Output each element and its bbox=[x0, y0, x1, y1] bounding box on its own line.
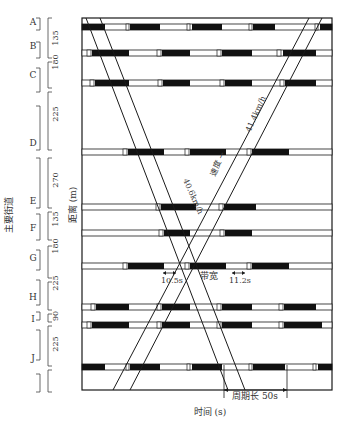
red-phase bbox=[92, 50, 129, 56]
signal-row bbox=[82, 230, 332, 236]
amber-phase bbox=[280, 80, 284, 86]
red-phase bbox=[163, 80, 190, 86]
red-phase bbox=[222, 322, 252, 328]
distance-value: 135 bbox=[51, 30, 60, 45]
amber-phase bbox=[220, 80, 224, 86]
amber-phase bbox=[157, 50, 161, 56]
intersection-label-I: I bbox=[31, 314, 35, 324]
red-phase bbox=[130, 24, 160, 30]
distance-axis-label: 距离 (m) bbox=[67, 187, 78, 223]
intersection-label-B: B bbox=[30, 41, 37, 51]
signal-rows bbox=[82, 24, 332, 370]
amber-phase bbox=[185, 149, 189, 155]
red-phase bbox=[161, 204, 196, 210]
bandwidth-right-marker bbox=[232, 271, 245, 275]
amber-phase bbox=[279, 304, 283, 310]
amber-phase bbox=[247, 263, 251, 269]
red-phase bbox=[128, 149, 164, 155]
red-phase bbox=[283, 50, 316, 56]
signal-row bbox=[82, 322, 332, 328]
intersection-label-A: A bbox=[29, 17, 37, 27]
amber-phase bbox=[91, 304, 95, 310]
amber-phase bbox=[123, 149, 127, 155]
bandwidth-label: 带宽 bbox=[200, 270, 218, 281]
red-phase bbox=[192, 364, 222, 370]
distance-value: 180 bbox=[51, 238, 60, 253]
red-phase bbox=[252, 149, 289, 155]
amber-phase bbox=[87, 50, 91, 56]
red-phase bbox=[162, 304, 190, 310]
signal-row bbox=[82, 263, 332, 269]
amber-phase bbox=[277, 50, 281, 56]
amber-phase bbox=[220, 230, 224, 236]
red-phase bbox=[320, 24, 332, 30]
amber-phase bbox=[185, 263, 189, 269]
amber-phase bbox=[217, 50, 221, 56]
distance-value: 225 bbox=[51, 275, 60, 290]
intersection-label-J: J bbox=[30, 353, 35, 363]
intersection-label-F: F bbox=[30, 223, 36, 233]
amber-phase bbox=[249, 24, 252, 30]
signal-row bbox=[82, 80, 332, 86]
red-phase bbox=[252, 263, 289, 269]
amber-phase bbox=[249, 364, 252, 370]
red-phase bbox=[225, 80, 252, 86]
red-phase bbox=[162, 322, 190, 328]
red-phase bbox=[130, 364, 160, 370]
intersection-label-D: D bbox=[29, 138, 36, 148]
red-phase bbox=[192, 24, 222, 30]
amber-phase bbox=[247, 149, 251, 155]
left-axis: ABCDEFGHIJ13518022527013518022590225 bbox=[29, 17, 60, 392]
amber-phase bbox=[187, 364, 190, 370]
intersection-label-C: C bbox=[30, 70, 37, 80]
signal-row bbox=[82, 364, 332, 370]
intersection-label-G: G bbox=[29, 253, 36, 263]
red-phase bbox=[284, 304, 316, 310]
amber-phase bbox=[219, 204, 223, 210]
speed-up-label: 41.4km/h bbox=[244, 95, 268, 133]
red-phase bbox=[253, 364, 285, 370]
cycle-length-label: 周期长 50s bbox=[232, 390, 278, 401]
amber-phase bbox=[87, 322, 91, 328]
time-space-diagram: ABCDEFGHIJ13518022527013518022590225 主要街… bbox=[0, 0, 345, 427]
amber-phase bbox=[187, 24, 190, 30]
bandwidth-right-value: 11.2s bbox=[229, 276, 251, 285]
red-phase bbox=[128, 263, 164, 269]
amber-phase bbox=[279, 322, 283, 328]
red-phase bbox=[284, 322, 322, 328]
amber-phase bbox=[123, 263, 127, 269]
red-phase bbox=[318, 364, 332, 370]
red-phase bbox=[96, 304, 129, 310]
distance-value: 225 bbox=[51, 336, 60, 351]
red-phase bbox=[224, 204, 256, 210]
red-phase bbox=[225, 230, 252, 236]
amber-phase bbox=[313, 364, 316, 370]
bandwidth-left-value: 10.5s bbox=[161, 276, 183, 285]
distance-value: 180 bbox=[51, 54, 60, 69]
amber-phase bbox=[90, 80, 94, 86]
signal-row bbox=[82, 149, 332, 155]
time-axis-label: 时间 (s) bbox=[194, 406, 227, 417]
distance-value: 270 bbox=[51, 172, 60, 187]
signal-row bbox=[82, 204, 332, 210]
red-phase bbox=[253, 24, 275, 30]
amber-phase bbox=[159, 230, 163, 236]
amber-phase bbox=[217, 304, 221, 310]
red-phase bbox=[222, 304, 252, 310]
red-phase bbox=[222, 50, 252, 56]
red-phase bbox=[162, 50, 190, 56]
red-phase bbox=[82, 24, 105, 30]
signal-row bbox=[82, 50, 332, 56]
red-phase bbox=[92, 322, 129, 328]
red-phase bbox=[82, 364, 105, 370]
main-street-label: 主要街道 bbox=[3, 197, 14, 233]
distance-value: 90 bbox=[51, 311, 60, 321]
intersection-label-H: H bbox=[29, 292, 37, 302]
intersection-label-E: E bbox=[30, 196, 37, 206]
signal-row bbox=[82, 24, 332, 30]
amber-phase bbox=[126, 24, 129, 30]
distance-value: 225 bbox=[51, 106, 60, 121]
amber-phase bbox=[158, 80, 162, 86]
distance-value: 135 bbox=[51, 211, 60, 226]
amber-phase bbox=[157, 322, 161, 328]
